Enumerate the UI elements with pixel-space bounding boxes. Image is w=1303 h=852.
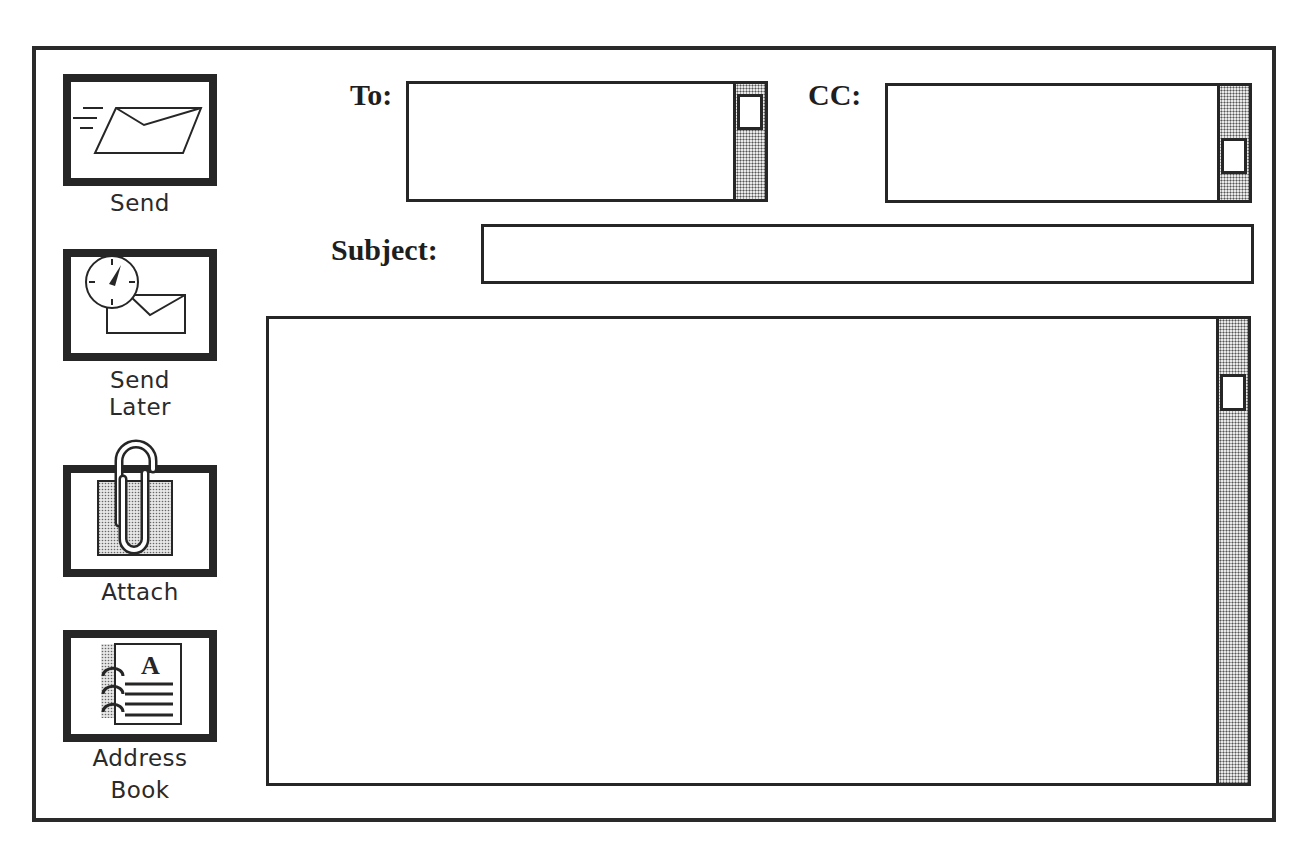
attach-label: Attach <box>63 579 217 606</box>
cc-scrollbar[interactable] <box>1217 86 1249 200</box>
address-book-letter: A <box>141 651 160 680</box>
clock-envelope-icon <box>71 257 209 353</box>
message-body-input[interactable] <box>269 319 1219 783</box>
cc-scroll-thumb[interactable] <box>1221 138 1247 174</box>
address-book-label-line1: Address <box>63 745 217 772</box>
send-button[interactable]: Send <box>63 74 217 224</box>
send-button-frame <box>63 74 217 186</box>
send-later-label-line2: Later <box>63 394 217 421</box>
to-scrollbar[interactable] <box>733 84 765 199</box>
to-label: To: <box>350 78 392 112</box>
to-input[interactable] <box>409 84 737 199</box>
send-later-button-frame <box>63 249 217 361</box>
to-field[interactable] <box>406 81 768 202</box>
subject-field[interactable] <box>481 224 1254 284</box>
to-scroll-thumb[interactable] <box>737 94 763 130</box>
send-later-button[interactable]: Send Later <box>63 249 217 424</box>
address-book-button[interactable]: A Address Book <box>63 630 217 810</box>
attach-button[interactable]: Attach <box>63 465 217 610</box>
cc-input[interactable] <box>888 86 1221 200</box>
send-label: Send <box>63 190 217 217</box>
message-body-scroll-thumb[interactable] <box>1220 374 1246 411</box>
send-later-label-line1: Send <box>63 367 217 394</box>
cc-label: CC: <box>808 78 861 112</box>
paperclip-icon <box>103 439 173 559</box>
message-body-scrollbar[interactable] <box>1216 319 1248 783</box>
address-book-icon: A <box>71 638 209 734</box>
address-book-label-line2: Book <box>63 777 217 804</box>
subject-label: Subject: <box>331 233 438 267</box>
cc-field[interactable] <box>885 83 1252 203</box>
address-book-button-frame: A <box>63 630 217 742</box>
envelope-sending-icon <box>71 82 209 178</box>
subject-input[interactable] <box>484 227 1251 281</box>
message-body-field[interactable] <box>266 316 1251 786</box>
